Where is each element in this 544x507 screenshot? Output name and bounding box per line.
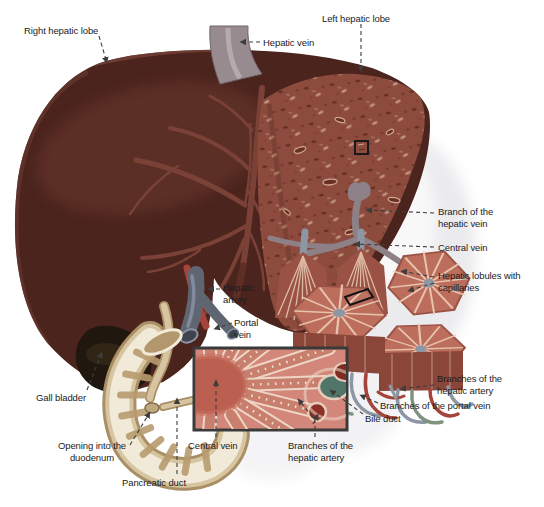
label-portal-vein: Portal vein — [234, 317, 266, 341]
label-branches-portal-vein: Branches of the portal vein — [380, 400, 490, 412]
label-central-vein: Central vein — [438, 242, 488, 254]
label-opening-into-duodenum: Opening into the duodenum — [52, 440, 132, 464]
label-left-hepatic-lobe: Left hepatic lobe — [322, 13, 390, 25]
label-hepatic-lobules-with-capillaries: Hepatic lobules with capillaries — [438, 270, 534, 294]
label-right-hepatic-lobe: Right hepatic lobe — [24, 25, 98, 37]
magnified-region-square — [355, 141, 368, 154]
duodenal-papilla — [145, 403, 159, 413]
label-pancreatic-duct: Pancreatic duct — [122, 477, 186, 489]
label-inset-branches-hepatic-artery: Branches of the hepatic artery — [288, 440, 364, 464]
label-branches-hepatic-artery: Branches of the hepatic artery — [437, 373, 513, 397]
label-hepatic-artery: Hepatic artery — [223, 282, 263, 306]
liver-anatomy-figure: Right hepatic lobe Left hepatic lobe Hep… — [0, 0, 544, 507]
label-bile-duct: Bile duct — [365, 413, 401, 425]
label-gall-bladder: Gall bladder — [36, 392, 86, 404]
label-branch-of-hepatic-vein: Branch of the hepatic vein — [438, 206, 506, 230]
label-hepatic-vein: Hepatic vein — [263, 37, 314, 49]
label-inset-central-vein: Central vein — [188, 440, 238, 452]
